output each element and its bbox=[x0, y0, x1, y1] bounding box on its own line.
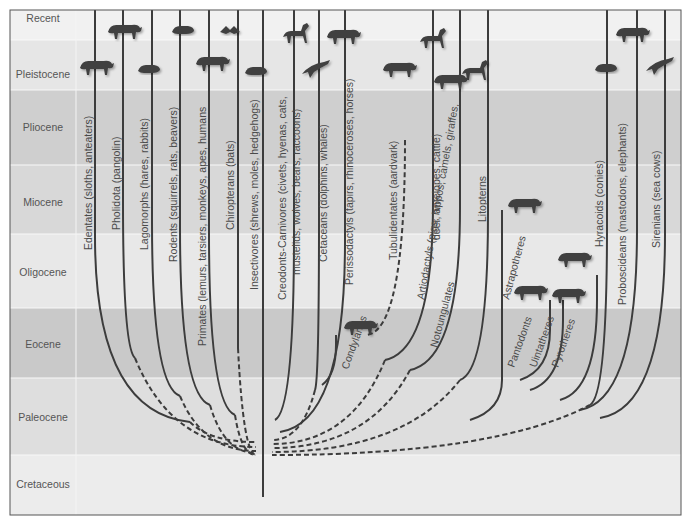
group-label: Rodents (squirrels, rats, beavers) bbox=[167, 107, 179, 262]
period-label: Miocene bbox=[23, 196, 63, 208]
period-label: Eocene bbox=[25, 338, 61, 350]
group-label: Tubulidentates (aardvark) bbox=[387, 141, 399, 260]
group-label: Cetaceans (dolphins, whales) bbox=[317, 124, 329, 262]
period-label: Recent bbox=[26, 12, 59, 24]
group-label: Litopterns bbox=[476, 176, 488, 222]
mammal-evolution-diagram: RecentPleistocenePlioceneMioceneOligocen… bbox=[0, 0, 690, 526]
group-label: mustelids, wolves, bears, raccoons) bbox=[290, 109, 302, 275]
group-label: Lagomorphs (hares, rabbits) bbox=[138, 118, 150, 250]
group-label: Primates (lemurs, tarsiers, monkeys, ape… bbox=[196, 107, 208, 346]
period-label: Cretaceous bbox=[16, 478, 70, 490]
group-label: Proboscideans (mastodons, elephants) bbox=[616, 123, 628, 305]
group-label: deer, antelopes, cattle) bbox=[430, 134, 442, 240]
period-label: Pliocene bbox=[23, 121, 63, 133]
period-band-paleocene bbox=[10, 378, 681, 455]
group-label: Sirenians (sea cows) bbox=[650, 151, 662, 248]
group-label: Perissodactyls (tapirs, rhinoceroses, ho… bbox=[343, 78, 355, 285]
group-label: Pholidota (pangolin) bbox=[110, 137, 122, 230]
period-label: Paleocene bbox=[18, 411, 68, 423]
period-label: Oligocene bbox=[19, 266, 66, 278]
group-label: Insectivores (shrews, moles, hedgehogs) bbox=[248, 99, 260, 290]
group-label: Chiropterans (bats) bbox=[224, 140, 236, 230]
group-label: Hyracoids (conies) bbox=[593, 160, 605, 247]
group-label: Creodonts-Carnivores (civets, hyenas, ca… bbox=[276, 96, 288, 300]
period-label: Pleistocene bbox=[16, 68, 70, 80]
period-band-cretaceous bbox=[10, 455, 681, 515]
group-label: Edentates (sloths, anteaters) bbox=[82, 116, 94, 250]
